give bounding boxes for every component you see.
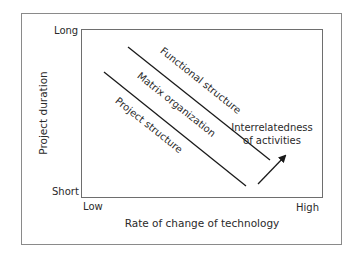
arrow-label-line1: Interrelatedness (231, 121, 313, 134)
interrelatedness-arrow-icon (258, 156, 285, 184)
y-tick-long: Long (54, 25, 78, 36)
boundary-line-lower (104, 72, 246, 186)
x-tick-low: Low (83, 201, 103, 212)
y-axis-label: Project duration (37, 71, 49, 154)
arrow-label: Interrelatedness of activities (231, 121, 313, 147)
x-axis-label: Rate of change of technology (125, 217, 280, 229)
y-tick-short: Short (52, 186, 79, 197)
plot-area-box (82, 30, 323, 198)
x-tick-high: High (296, 202, 319, 213)
arrow-label-line2: of activities (231, 134, 313, 147)
